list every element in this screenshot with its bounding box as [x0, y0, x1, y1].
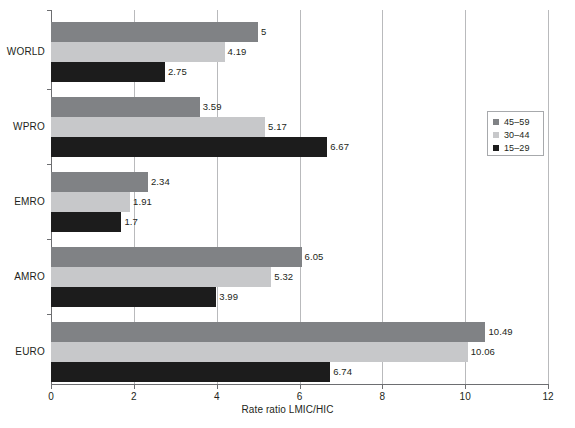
bar-chart: 54.192.753.595.176.672.341.911.76.055.32… — [0, 0, 575, 428]
bar-value-label-world-series0: 5 — [261, 22, 266, 42]
bar-value-label-world-series2: 2.75 — [168, 62, 187, 82]
x-tick-mark — [465, 384, 466, 389]
bar-value-label-world-series1: 4.19 — [228, 42, 247, 62]
bar-euro-series1[interactable] — [51, 342, 468, 362]
bar-value-label-euro-series2: 6.74 — [333, 362, 352, 382]
bar-emro-series0[interactable] — [51, 172, 148, 192]
x-tick-label: 8 — [380, 391, 386, 402]
legend-label-15-29: 15–29 — [504, 143, 530, 153]
bar-amro-series0[interactable] — [51, 247, 302, 267]
legend-label-30-44: 30–44 — [504, 130, 530, 140]
x-tick-label: 2 — [131, 391, 137, 402]
bar-wpro-series2[interactable] — [51, 137, 327, 157]
y-tick-mark — [47, 239, 52, 240]
x-tick-mark — [51, 384, 52, 389]
legend-swatch-icon-45-59 — [493, 119, 499, 125]
x-tick-label: 6 — [297, 391, 303, 402]
bar-emro-series1[interactable] — [51, 192, 130, 212]
bar-world-series2[interactable] — [51, 62, 165, 82]
y-tick-mark — [47, 89, 52, 90]
bar-emro-series2[interactable] — [51, 212, 121, 232]
bar-wpro-series0[interactable] — [51, 97, 200, 117]
legend: 45–59 30–44 15–29 — [487, 111, 544, 156]
y-tick-mark — [47, 164, 52, 165]
y-tick-mark-top — [47, 10, 52, 11]
bar-value-label-emro-series2: 1.7 — [124, 212, 138, 232]
bar-value-label-emro-series1: 1.91 — [133, 192, 152, 212]
bar-amro-series1[interactable] — [51, 267, 271, 287]
x-tick-label: 12 — [542, 391, 553, 402]
legend-item-45-59[interactable]: 45–59 — [493, 116, 538, 128]
y-tick-mark — [47, 314, 52, 315]
bar-value-label-wpro-series2: 6.67 — [330, 137, 349, 157]
gridline — [548, 10, 549, 385]
bar-world-series0[interactable] — [51, 22, 258, 42]
bar-value-label-emro-series0: 2.34 — [151, 172, 170, 192]
legend-swatch-icon-15-29 — [493, 145, 499, 151]
x-tick-mark — [134, 384, 135, 389]
x-tick-label: 10 — [460, 391, 471, 402]
x-tick-mark — [548, 384, 549, 389]
category-label-amro: AMRO — [14, 271, 45, 282]
bar-value-label-amro-series2: 3.99 — [219, 287, 238, 307]
bar-value-label-wpro-series1: 5.17 — [268, 117, 287, 137]
legend-swatch-icon-30-44 — [493, 132, 499, 138]
x-axis-title: Rate ratio LMIC/HIC — [0, 404, 575, 415]
category-label-world: WORLD — [7, 46, 45, 57]
bar-value-label-euro-series0: 10.49 — [488, 322, 512, 342]
category-label-euro: EURO — [15, 346, 45, 357]
bar-value-label-wpro-series0: 3.59 — [203, 97, 222, 117]
bar-value-label-amro-series1: 5.32 — [274, 267, 293, 287]
category-label-wpro: WPRO — [13, 121, 45, 132]
bar-amro-series2[interactable] — [51, 287, 216, 307]
x-tick-mark — [300, 384, 301, 389]
bar-value-label-amro-series0: 6.05 — [305, 247, 324, 267]
legend-item-30-44[interactable]: 30–44 — [493, 129, 538, 141]
legend-label-45-59: 45–59 — [504, 117, 530, 127]
x-tick-mark — [382, 384, 383, 389]
x-tick-label: 4 — [214, 391, 220, 402]
bar-wpro-series1[interactable] — [51, 117, 265, 137]
bar-value-label-euro-series1: 10.06 — [471, 342, 495, 362]
bar-euro-series2[interactable] — [51, 362, 330, 382]
bar-euro-series0[interactable] — [51, 322, 485, 342]
x-tick-label: 0 — [48, 391, 54, 402]
category-label-emro: EMRO — [14, 196, 45, 207]
legend-item-15-29[interactable]: 15–29 — [493, 142, 538, 154]
bar-world-series1[interactable] — [51, 42, 225, 62]
x-tick-mark — [217, 384, 218, 389]
